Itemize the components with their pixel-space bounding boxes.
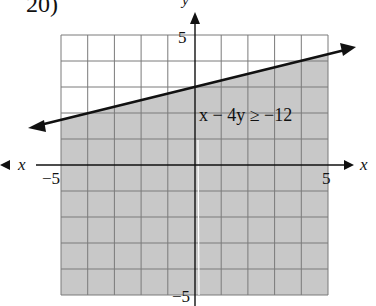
- x-axis-label-left: x: [18, 155, 26, 175]
- x-min-tick-label: −5: [42, 169, 60, 189]
- x-axis-arrow-icon: [344, 160, 354, 170]
- line-right-arrow-icon: [340, 43, 356, 56]
- coordinate-graph: [0, 0, 376, 306]
- inequality-label: x − 4y ≥ −12: [199, 105, 292, 126]
- x-axis-label-right: x: [360, 155, 368, 175]
- y-min-tick-label: −5: [172, 287, 190, 306]
- y-max-tick-label: 5: [178, 28, 187, 48]
- x-max-tick-label: 5: [322, 169, 331, 189]
- x-axis-left-arrow-icon: [0, 160, 10, 170]
- y-axis-arrow-icon: [190, 12, 200, 24]
- y-axis-label: y: [182, 0, 189, 9]
- line-left-arrow-icon: [28, 120, 46, 132]
